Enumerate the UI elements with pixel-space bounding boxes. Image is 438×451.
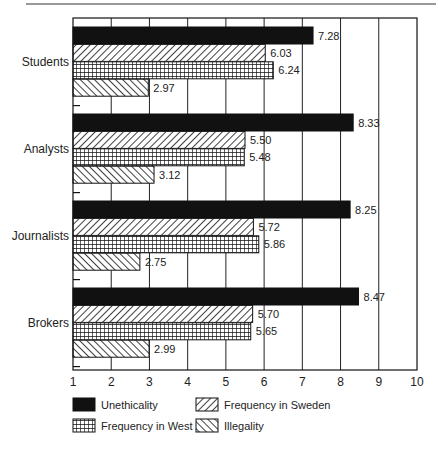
legend-item-frequency-in-sweden: Frequency in Sweden xyxy=(196,398,330,411)
legend-label: Illegality xyxy=(224,420,264,432)
x-tick-label: 10 xyxy=(410,375,424,389)
value-label: 8.33 xyxy=(358,117,379,129)
bar-group-students: 7.286.036.242.97 xyxy=(73,27,339,106)
value-label: 5.65 xyxy=(256,325,277,337)
legend-item-unethicality: Unethicality xyxy=(73,398,158,411)
bar-unethicality xyxy=(73,201,350,218)
category-label: Journalists xyxy=(12,229,69,243)
legend-item-frequency-in-west: Frequency in West xyxy=(73,419,193,432)
bar-frequency-in-west xyxy=(73,149,244,166)
value-label: 3.12 xyxy=(159,169,180,181)
value-label: 5.48 xyxy=(249,151,270,163)
bar-illegality xyxy=(73,166,154,183)
legend-label: Unethicality xyxy=(101,399,158,411)
value-label: 6.03 xyxy=(270,47,291,59)
x-tick-label: 7 xyxy=(299,375,306,389)
legend-swatch xyxy=(73,398,95,411)
x-tick-label: 6 xyxy=(261,375,268,389)
value-label: 8.25 xyxy=(355,204,376,216)
x-tick-label: 9 xyxy=(375,375,382,389)
x-tick-label: 2 xyxy=(108,375,115,389)
bar-frequency-in-west xyxy=(73,236,259,253)
legend-item-illegality: Illegality xyxy=(196,419,264,432)
bar-frequency-in-west xyxy=(73,62,273,79)
bar-frequency-in-sweden xyxy=(73,44,265,61)
value-label: 2.99 xyxy=(154,343,175,355)
bar-frequency-in-sweden xyxy=(73,131,245,148)
x-tick-label: 3 xyxy=(146,375,153,389)
bar-unethicality xyxy=(73,288,359,305)
x-tick-label: 8 xyxy=(337,375,344,389)
value-label: 2.75 xyxy=(145,256,166,268)
bar-illegality xyxy=(73,253,140,270)
x-tick-label: 1 xyxy=(70,375,77,389)
value-label: 8.47 xyxy=(364,291,385,303)
value-label: 5.72 xyxy=(258,221,279,233)
x-tick-label: 4 xyxy=(184,375,191,389)
category-label: Analysts xyxy=(24,142,69,156)
legend-label: Frequency in West xyxy=(101,420,193,432)
legend-swatch xyxy=(196,419,218,432)
legend-swatch xyxy=(73,419,95,432)
value-label: 2.97 xyxy=(153,82,174,94)
legend-label: Frequency in Sweden xyxy=(224,399,330,411)
value-label: 5.70 xyxy=(258,308,279,320)
x-tick-label: 5 xyxy=(223,375,230,389)
value-label: 5.50 xyxy=(250,134,271,146)
bar-illegality xyxy=(73,79,148,96)
value-label: 6.24 xyxy=(278,64,299,76)
bar-unethicality xyxy=(73,114,353,131)
bar-illegality xyxy=(73,340,149,357)
category-labels: StudentsAnalystsJournalistsBrokers xyxy=(12,55,69,330)
value-label: 7.28 xyxy=(318,30,339,42)
bars: 7.286.036.242.978.335.505.483.128.255.72… xyxy=(73,27,385,367)
bar-unethicality xyxy=(73,27,313,44)
bar-group-journalists: 8.255.725.862.75 xyxy=(73,201,377,280)
category-label: Students xyxy=(22,55,69,69)
bar-chart: 7.286.036.242.978.335.505.483.128.255.72… xyxy=(0,0,438,451)
x-axis-ticks: 12345678910 xyxy=(70,375,424,389)
bar-group-brokers: 8.475.705.652.99 xyxy=(73,288,385,367)
legend: UnethicalityFrequency in SwedenFrequency… xyxy=(73,398,330,432)
legend-swatch xyxy=(196,398,218,411)
bar-frequency-in-sweden xyxy=(73,218,253,235)
bar-frequency-in-sweden xyxy=(73,305,253,322)
category-label: Brokers xyxy=(28,316,69,330)
value-label: 5.86 xyxy=(264,238,285,250)
bar-frequency-in-west xyxy=(73,323,251,340)
